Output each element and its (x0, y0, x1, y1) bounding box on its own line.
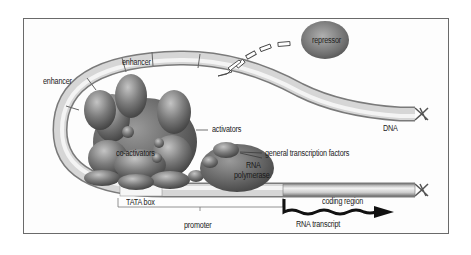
activator-left (84, 90, 116, 130)
activator-right (157, 90, 191, 134)
tata-box-label: TATA box (126, 197, 155, 207)
rna-polymerase-label-line1: RNA (246, 160, 261, 170)
repressor-label: repressor (312, 35, 341, 45)
co-activators-label: co-activators (116, 148, 155, 158)
coding-region-label: coding region (322, 196, 363, 206)
activator-top (115, 74, 147, 118)
promoter-label: promoter (184, 220, 212, 230)
general-transcription-factors-label: general transcription factors (265, 148, 349, 158)
general-transcription-factor (213, 142, 239, 158)
coding-region (283, 184, 415, 196)
enhancer-left-label: enhancer (43, 76, 72, 86)
rna-transcript-label: RNA transcript (296, 219, 340, 229)
rna-polymerase (200, 142, 274, 192)
rna-polymerase-label-line2: polymerase (234, 170, 270, 180)
enhancer-top-label: enhancer (122, 57, 151, 67)
activators-label: activators (212, 124, 241, 134)
co-activator-complex (84, 74, 204, 190)
dna-label: DNA (383, 123, 398, 133)
